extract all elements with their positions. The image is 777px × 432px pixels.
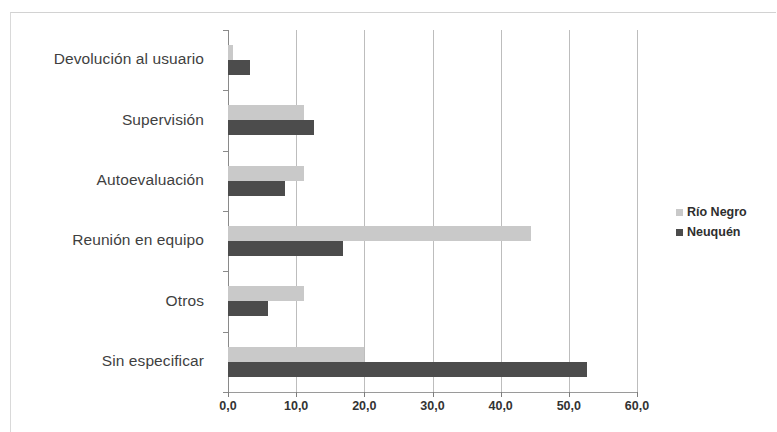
x-tick-label: 50,0 xyxy=(557,399,581,413)
bar-neuquen xyxy=(228,362,587,377)
y-tick xyxy=(223,90,228,91)
gridline-60 xyxy=(637,30,638,392)
chart-legend: Río NegroNeuquén xyxy=(676,202,776,242)
x-tick-0 xyxy=(228,392,229,397)
x-tick-60 xyxy=(637,392,638,397)
bar-rio-negro xyxy=(228,347,364,362)
bar-group-inner xyxy=(228,286,637,316)
bar-rio-negro xyxy=(228,166,304,181)
x-tick-label: 20,0 xyxy=(352,399,376,413)
category-label: Sin especificar xyxy=(102,352,204,370)
category-label: Devolución al usuario xyxy=(54,50,204,68)
bar-neuquen xyxy=(228,181,285,196)
bar-group xyxy=(228,271,637,331)
category-label: Otros xyxy=(166,292,204,310)
y-tick xyxy=(223,271,228,272)
category-label: Supervisión xyxy=(122,111,204,129)
y-tick xyxy=(223,151,228,152)
bar-rio-negro xyxy=(228,226,531,241)
bar-group-inner xyxy=(228,226,637,256)
bar-rio-negro xyxy=(228,45,233,60)
bar-group-inner xyxy=(228,166,637,196)
legend-swatch-icon xyxy=(676,229,683,236)
bar-rows xyxy=(228,30,637,392)
legend-item: Neuquén xyxy=(676,222,776,242)
x-axis-tick-labels: 0,010,020,030,040,050,060,0 xyxy=(0,399,777,419)
x-tick-10 xyxy=(296,392,297,397)
x-tick-label: 10,0 xyxy=(284,399,308,413)
bar-group-inner xyxy=(228,45,637,75)
bar-rio-negro xyxy=(228,286,304,301)
bar-group xyxy=(228,151,637,211)
category-label: Autoevaluación xyxy=(97,171,204,189)
x-tick-label: 60,0 xyxy=(625,399,649,413)
y-tick xyxy=(223,30,228,31)
x-tick-30 xyxy=(433,392,434,397)
y-tick xyxy=(223,332,228,333)
bar-neuquen xyxy=(228,120,314,135)
bar-group xyxy=(228,211,637,271)
bar-group-inner xyxy=(228,347,637,377)
bar-group xyxy=(228,90,637,150)
bar-neuquen xyxy=(228,301,268,316)
legend-label: Río Negro xyxy=(687,205,747,219)
chart-container: Devolución al usuarioSupervisiónAutoeval… xyxy=(0,0,777,432)
bar-neuquen xyxy=(228,60,250,75)
legend-swatch-icon xyxy=(676,209,683,216)
x-tick-40 xyxy=(501,392,502,397)
x-tick-50 xyxy=(569,392,570,397)
bar-group xyxy=(228,332,637,392)
category-label: Reunión en equipo xyxy=(72,231,204,249)
y-tick xyxy=(223,211,228,212)
bar-group xyxy=(228,30,637,90)
plot-area xyxy=(228,30,637,392)
y-axis-category-labels: Devolución al usuarioSupervisiónAutoeval… xyxy=(0,30,214,392)
bar-neuquen xyxy=(228,241,343,256)
bar-rio-negro xyxy=(228,105,304,120)
x-tick-label: 40,0 xyxy=(488,399,512,413)
legend-label: Neuquén xyxy=(687,225,740,239)
x-tick-label: 30,0 xyxy=(420,399,444,413)
bar-group-inner xyxy=(228,105,637,135)
x-tick-label: 0,0 xyxy=(219,399,236,413)
legend-item: Río Negro xyxy=(676,202,776,222)
x-tick-20 xyxy=(364,392,365,397)
